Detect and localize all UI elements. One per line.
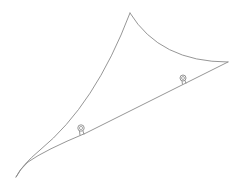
sail-bottom-edge	[16, 62, 228, 177]
shade-sail-illustration	[0, 0, 242, 188]
sail-top-edge	[130, 13, 228, 62]
sail-left-edge	[16, 13, 130, 177]
